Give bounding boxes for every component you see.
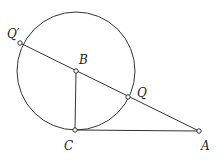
label-q: Q xyxy=(137,86,147,100)
label-q-prime: Q′ xyxy=(7,27,20,41)
label-c: C xyxy=(64,139,73,153)
point-q xyxy=(126,95,130,99)
point-b xyxy=(74,69,78,73)
point-a xyxy=(197,129,201,133)
radius-BC xyxy=(75,71,76,130)
label-b: B xyxy=(78,53,88,67)
secant-line xyxy=(20,43,199,131)
label-a: A xyxy=(200,139,210,153)
point-c xyxy=(73,128,77,132)
geometry-diagram: Q′ B Q C A xyxy=(0,0,221,160)
tangent-CA xyxy=(75,130,199,131)
point-q-prime xyxy=(18,41,22,45)
